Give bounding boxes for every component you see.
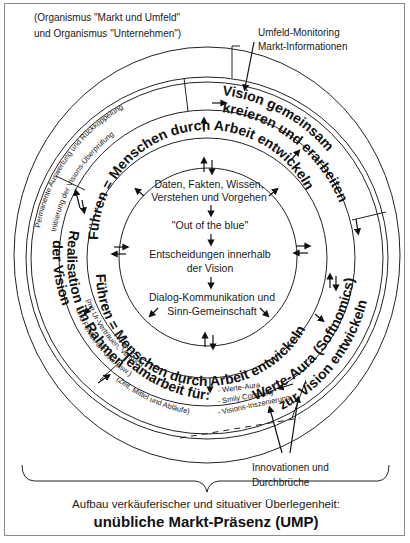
- inner-step3-line1: Entscheidungen innerhalb: [149, 248, 271, 260]
- inner-arrow-upleft: [137, 190, 144, 196]
- updown-arrows-top: [204, 160, 212, 172]
- mid-to-werte-arrow: [315, 314, 322, 320]
- inner-step3-line2: der Vision: [187, 262, 234, 274]
- inner-arrow-downleft: [151, 308, 158, 315]
- band-to-realisation-arrow: [82, 200, 84, 211]
- leftright-arrows-left: [114, 247, 126, 254]
- leftright-arrows-right: [296, 246, 308, 253]
- innovations-label-line2: Durchbrüche: [252, 477, 310, 488]
- vision-down-arrow: [356, 219, 358, 232]
- inner-arrow-downright: [260, 308, 267, 315]
- monitoring-label-line2: Markt-Informationen: [258, 41, 347, 52]
- inner-step1-line2: Verstehen und Vorgehen: [151, 191, 267, 203]
- updown-arrows-bottom: [205, 335, 213, 347]
- updown-arrows-right-sector: [330, 276, 336, 288]
- innovations-label-line1: Innovationen und: [252, 462, 329, 473]
- monitoring-bracket: [232, 46, 240, 78]
- monitoring-arrow: [245, 42, 254, 88]
- inner-step4-line2: Sinn-Gemeinschaft: [167, 305, 256, 317]
- vision-circle-diagram: (Organismus "Markt und Umfeld" und Organ…: [0, 0, 410, 543]
- curly-brace: [22, 465, 389, 492]
- dashed-connector: [180, 418, 300, 438]
- monitoring-label-line1: Umfeld-Monitoring: [258, 27, 340, 38]
- footer-line2: unübliche Markt-Präsenz (UMP): [93, 513, 318, 530]
- organismus-label-line2: und Organismus "Unternehmen"): [34, 28, 181, 39]
- inner-step1-line1: Daten, Fakten, Wissen,: [154, 178, 263, 190]
- innovation-arrow-1: [270, 409, 282, 453]
- inner-step4-line1: Dialog-Kommunikation und: [149, 291, 275, 303]
- organismus-label-line1: (Organismus "Markt und Umfeld": [34, 12, 180, 23]
- divider-right: [352, 212, 386, 220]
- inner-step2: "Out of the blue": [172, 219, 249, 231]
- realisation-up-arrow: [76, 192, 80, 208]
- footer-line1: Aufbau verkäuferischer und situativer Üb…: [72, 498, 340, 510]
